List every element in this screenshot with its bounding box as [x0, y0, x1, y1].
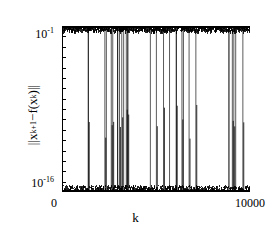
- x-axis-label: k: [0, 210, 271, 226]
- y-axis-label-f: f(: [25, 105, 41, 114]
- y-axis-label-fx-sub: k: [29, 94, 38, 98]
- x-tick-label-10000: 10000: [235, 196, 265, 211]
- y-tick-top-exponent: -1: [47, 26, 54, 35]
- chart-figure: ||xk+1 − f(xk)|| 10-1 10-16 0 10000 k: [0, 0, 271, 230]
- y-axis-label-fx: x: [25, 98, 41, 105]
- y-axis-label-x-sub: k+1: [29, 121, 38, 134]
- y-axis-label-minus: −: [25, 114, 41, 121]
- y-axis-label-x: x: [25, 133, 41, 140]
- y-axis-label-bar-open: ||: [25, 140, 41, 145]
- y-tick-bottom-exponent: -16: [43, 175, 54, 184]
- plot-svg: [58, 26, 250, 192]
- y-tick-label-bottom: 10-16: [31, 176, 54, 189]
- y-tick-bottom-mantissa: 10: [31, 176, 43, 190]
- y-tick-top-mantissa: 10: [35, 27, 47, 41]
- y-tick-label-bottom-container: 10-16: [8, 176, 54, 190]
- x-tick-label-0: 0: [51, 196, 57, 211]
- y-tick-label-top-container: 10-1: [14, 27, 54, 41]
- y-axis-label-fclose: ): [25, 90, 41, 94]
- y-axis-label-bar-close: ||: [25, 85, 41, 90]
- y-tick-label-top: 10-1: [35, 27, 54, 40]
- plot-area: [58, 26, 250, 192]
